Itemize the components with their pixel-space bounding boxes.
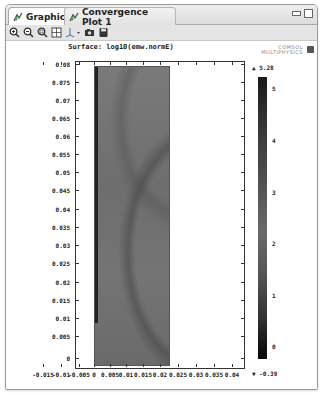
x-tick-mark (196, 62, 197, 65)
x-tick-mark (143, 62, 144, 65)
x-tick-mark (79, 364, 80, 367)
x-tick-label: 0 (92, 371, 96, 378)
colorbar-max-value: 5.28 (259, 64, 273, 71)
y-tick-mark (241, 336, 244, 337)
graphics-icon (69, 12, 79, 22)
y-tick-label: 0.075 (6, 79, 70, 86)
x-tick-mark (232, 62, 233, 65)
y-tick-mark (241, 100, 244, 101)
x-tick-mark (110, 62, 111, 65)
y-tick-label: 0.025 (6, 260, 70, 267)
x-tick-mark (94, 62, 95, 65)
x-tick-mark (94, 364, 95, 367)
surface-plot (94, 66, 170, 366)
colorbar-tick: 4 (272, 137, 276, 144)
y-tick-mark (241, 154, 244, 155)
minimize-icon[interactable] (292, 11, 301, 16)
x-tick-mark (160, 364, 161, 367)
zoom-box-icon[interactable] (37, 27, 48, 38)
x-tick-mark (43, 364, 44, 367)
y-tick-label: 0.03 (6, 242, 70, 249)
y-tick-mark (76, 263, 79, 264)
y-tick-mark (241, 190, 244, 191)
y-tick-label: 0.06 (6, 133, 70, 140)
colorbar-tick: 1 (272, 292, 276, 299)
y-tick-mark (241, 318, 244, 319)
y-tick-label: 0 (6, 355, 70, 362)
y-tick-label: 0.065 (6, 115, 70, 122)
y-tick-label: 0.04 (6, 206, 70, 213)
y-tick-mark (241, 118, 244, 119)
y-tick-mark (76, 227, 79, 228)
zoom-out-icon[interactable] (23, 27, 34, 38)
x-tick-mark (178, 62, 179, 65)
x-tick-mark (61, 62, 62, 65)
graphics-icon (13, 12, 23, 22)
plot-area[interactable]: Surface: log10(emw.normE) COMSOL MULTIPH… (6, 41, 317, 389)
maximize-icon[interactable] (304, 9, 313, 18)
tab-convergence-plot[interactable]: Convergence Plot 1 (64, 7, 176, 25)
x-tick-mark (61, 364, 62, 367)
y-tick-label: 0.07 (6, 97, 70, 104)
y-tick-mark (76, 190, 79, 191)
x-tick-label: 0.025 (169, 371, 187, 378)
y-tick-mark (76, 336, 79, 337)
y-tick-mark (241, 282, 244, 283)
tab-bar: Graphics Convergence Plot 1 (6, 5, 317, 25)
tab-label: Convergence Plot 1 (82, 7, 169, 27)
y-tick-label: 0.045 (6, 187, 70, 194)
y-tick-mark (76, 245, 79, 246)
y-tick-mark (76, 318, 79, 319)
y-tick-mark (241, 172, 244, 173)
y-tick-mark (76, 100, 79, 101)
colorbar-min-value: -0.39 (259, 370, 277, 377)
y-tick-mark (76, 82, 79, 83)
y-tick-mark (76, 172, 79, 173)
zoom-in-icon[interactable] (9, 27, 20, 38)
logo-text: MULTIPHYSICS (261, 50, 303, 55)
x-tick-label: -0.005 (68, 371, 90, 378)
x-tick-mark (143, 364, 144, 367)
y-tick-mark (241, 82, 244, 83)
y-tick-mark (76, 358, 79, 359)
zoom-extents-icon[interactable] (51, 27, 62, 38)
save-image-icon[interactable] (98, 27, 109, 38)
colorbar-tick: 2 (272, 240, 276, 247)
logo-badge-icon (307, 46, 314, 53)
camera-icon[interactable] (84, 27, 95, 38)
x-tick-label: 0.035 (205, 371, 223, 378)
x-tick-mark (196, 364, 197, 367)
y-tick-label: 0.005 (6, 333, 70, 340)
y-tick-mark (241, 227, 244, 228)
y-tick-label: 0.02 (6, 279, 70, 286)
x-tick-mark (178, 364, 179, 367)
x-tick-label: 0.015 (134, 371, 152, 378)
x-tick-label: 0.01 (119, 371, 133, 378)
colorbar-max: ▲ 5.28 (252, 64, 274, 71)
colorbar (258, 77, 267, 359)
y-tick-mark (76, 300, 79, 301)
x-tick-mark (79, 62, 80, 65)
x-tick-mark (43, 62, 44, 65)
graphics-window: Graphics Convergence Plot 1 (5, 4, 318, 390)
x-tick-label: 0.02 (153, 371, 167, 378)
y-tick-label: 0.015 (6, 297, 70, 304)
colorbar-min: ▼ -0.39 (252, 370, 277, 377)
y-tick-mark (76, 118, 79, 119)
colorbar-tick: 3 (272, 189, 276, 196)
window-controls (292, 9, 313, 18)
colorbar-tick: 0 (272, 343, 276, 350)
axis-orientation-icon[interactable] (65, 27, 81, 38)
y-tick-mark (241, 209, 244, 210)
tab-graphics[interactable]: Graphics (8, 7, 72, 25)
x-tick-mark (126, 62, 127, 65)
surface-left-edge (95, 67, 98, 323)
y-tick-label: 0.05 (6, 169, 70, 176)
comsol-logo: COMSOL MULTIPHYSICS (261, 45, 303, 55)
plot-title: Surface: log10(emw.normE) (6, 43, 236, 51)
y-tick-mark (241, 245, 244, 246)
y-tick-mark (76, 282, 79, 283)
x-tick-mark (214, 62, 215, 65)
y-tick-mark (241, 300, 244, 301)
y-tick-mark (241, 263, 244, 264)
